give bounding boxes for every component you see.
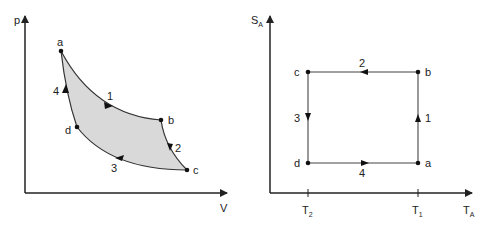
point-c-label: c [294,66,300,78]
point-d [306,161,311,166]
process-3-label: 3 [294,112,300,124]
point-c [306,70,311,75]
point-b-label: b [425,66,431,78]
point-b [159,118,164,123]
point-a-label: a [57,36,64,48]
point-a-label: a [425,157,432,169]
process-1-label: 1 [107,90,113,102]
point-a [416,161,421,166]
pv-diagram: a b c d 1 2 3 4 p V [14,14,228,214]
point-d [75,125,80,130]
tick-t2-label: T2 [302,204,313,218]
process-4-label: 4 [53,85,59,97]
t-axis-label: TA [463,204,475,218]
process-4-label: 4 [359,167,365,179]
process-3-arrow-icon [305,113,311,121]
v-axis-label: V [220,202,228,214]
process-2-label: 2 [175,142,181,154]
point-d-label: d [65,124,71,136]
point-a [59,49,64,54]
process-2-arrow-icon [360,69,368,75]
process-1-label: 1 [425,112,431,124]
process-4-arrow-icon [361,160,369,166]
tick-t1-label: T1 [412,204,423,218]
process-3-label: 3 [111,162,117,174]
process-2-label: 2 [359,57,365,69]
p-axis-label: p [14,14,20,26]
point-b-label: b [168,114,174,126]
s-axis-label: SA [251,14,263,28]
ts-diagram: a b c d 1 2 3 4 T2 T1 SA TA [251,14,475,218]
point-c-label: c [193,164,199,176]
process-1-arrow-icon [415,114,421,122]
cycle-area [61,51,187,170]
point-b [416,70,421,75]
point-d-label: d [294,157,300,169]
diagram-canvas: a b c d 1 2 3 4 p V a b c d [0,0,486,228]
point-c [185,168,190,173]
